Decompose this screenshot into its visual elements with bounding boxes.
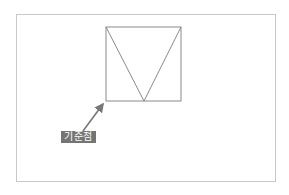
pointer-arrow-icon [83,104,103,131]
diagram-canvas [0,0,289,195]
square-shape [106,27,181,101]
reference-point-label: 기준점 [61,131,96,143]
triangle-right-edge [144,27,181,101]
triangle-left-edge [106,27,144,101]
